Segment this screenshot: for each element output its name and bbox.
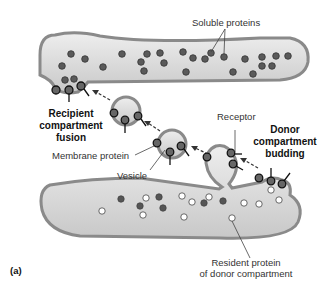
label-donor-budding: Donor compartment budding xyxy=(248,124,322,160)
label-donor-line2: compartment xyxy=(248,136,322,148)
vesicle-1 xyxy=(110,97,146,133)
label-soluble-proteins: Soluble proteins xyxy=(192,17,260,28)
label-resident-line1: Resident protein xyxy=(194,257,298,268)
label-receptor: Receptor xyxy=(217,111,256,122)
label-recipient-fusion: Recipient compartment fusion xyxy=(36,108,106,144)
label-resident-protein: Resident protein of donor compartment xyxy=(194,257,298,279)
figure-label: (a) xyxy=(10,265,22,276)
vesicle-2 xyxy=(153,130,189,165)
label-recipient-line2: compartment xyxy=(36,120,106,132)
label-vesicle: Vesicle xyxy=(117,170,147,181)
label-recipient-line1: Recipient xyxy=(36,108,106,120)
label-membrane-protein: Membrane protein xyxy=(52,150,129,161)
label-resident-line2: of donor compartment xyxy=(194,268,298,279)
label-recipient-line3: fusion xyxy=(36,132,106,144)
label-donor-line1: Donor xyxy=(248,124,322,136)
label-donor-line3: budding xyxy=(248,148,322,160)
